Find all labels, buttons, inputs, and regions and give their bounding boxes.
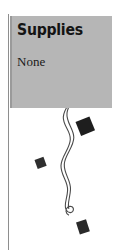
diamond-large — [76, 116, 96, 136]
panel-left-edge — [10, 16, 12, 108]
diamond-small-left — [35, 157, 47, 169]
left-margin-rule — [8, 14, 9, 250]
page-title: Supplies — [17, 20, 83, 39]
page-canvas: Supplies None — [0, 0, 117, 250]
diamond-bottom — [76, 219, 90, 234]
supplies-panel: Supplies None — [10, 16, 112, 108]
supplies-value: None — [17, 54, 45, 70]
